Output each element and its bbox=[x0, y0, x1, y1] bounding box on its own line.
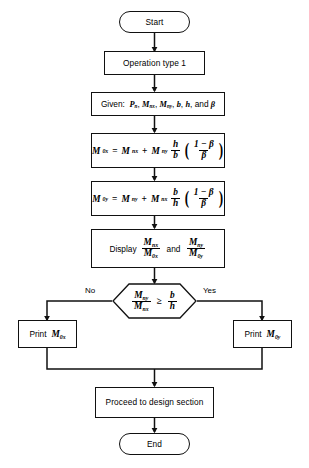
node-equation-mox: M0x=Mnx+Mny hb ( 1 − β β ) bbox=[91, 133, 225, 168]
display-conjunction: and bbox=[167, 244, 181, 254]
node-start: Start bbox=[119, 11, 190, 33]
print-left-prefix: Print bbox=[29, 329, 46, 339]
given-and-word: and bbox=[195, 99, 209, 109]
equation-moy-text: M0y=Mny+Mnx bh ( 1 − β β ) bbox=[92, 188, 223, 209]
node-proceed-label: Proceed to design section bbox=[106, 397, 204, 408]
node-decision: Mny Mnx ≥ bh bbox=[112, 283, 197, 319]
node-display-content: Display Mnx M0x and Mny M0y bbox=[109, 238, 206, 259]
given-prefix: Given: bbox=[101, 99, 125, 109]
node-end: End bbox=[119, 433, 190, 455]
branch-label-no: No bbox=[85, 286, 95, 295]
node-given-label: Given: Pn, Mnx, Mny, b, h, and β bbox=[101, 99, 215, 109]
branch-label-yes: Yes bbox=[203, 286, 216, 295]
decision-condition-text: Mny Mnx ≥ bh bbox=[131, 291, 179, 312]
node-start-label: Start bbox=[145, 17, 163, 27]
node-equation-moy: M0y=Mny+Mnx bh ( 1 − β β ) bbox=[91, 181, 225, 216]
node-operation-type-label: Operation type 1 bbox=[123, 58, 186, 68]
print-mox-content: Print M0x bbox=[29, 329, 65, 340]
merge-connector bbox=[47, 348, 262, 369]
arrow-no-branch bbox=[47, 301, 112, 320]
node-proceed: Proceed to design section bbox=[95, 387, 214, 418]
node-print-mox: Print M0x bbox=[18, 320, 77, 348]
node-operation-type: Operation type 1 bbox=[104, 51, 205, 75]
equation-mox-text: M0x=Mnx+Mny hb ( 1 − β β ) bbox=[92, 140, 224, 161]
arrow-yes-branch bbox=[197, 301, 262, 320]
flowchart-canvas: Start Operation type 1 Given: Pn, Mnx, M… bbox=[0, 0, 309, 468]
display-prefix: Display bbox=[109, 244, 136, 254]
node-display: Display Mnx M0x and Mny M0y bbox=[91, 229, 225, 268]
print-right-prefix: Print bbox=[245, 329, 262, 339]
print-moy-content: Print M0y bbox=[245, 329, 281, 340]
node-print-moy: Print M0y bbox=[233, 320, 292, 348]
node-given: Given: Pn, Mnx, Mny, b, h, and β bbox=[91, 92, 225, 116]
node-end-label: End bbox=[147, 439, 162, 449]
